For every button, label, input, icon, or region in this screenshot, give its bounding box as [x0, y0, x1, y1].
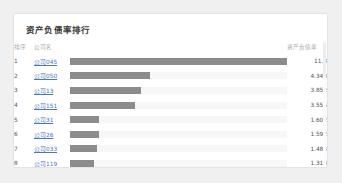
table-header: 排序 公司名 资产负债率 — [14, 41, 327, 54]
ranking-table-container: 排序 公司名 资产负债率 1公司04511.82公司0504.3433公司133… — [14, 41, 327, 167]
table-row: 5公司311.602 — [14, 112, 327, 127]
table-row: 1公司04511.8 — [14, 54, 327, 69]
bar-fill — [70, 131, 99, 138]
company-link[interactable]: 公司045 — [34, 59, 57, 65]
row-value: 4.343 — [287, 69, 327, 84]
bar-track — [70, 160, 287, 167]
page-root: 资产负债率排行 排序 公司名 资产负债率 1公司04511.82公司0504.3… — [0, 0, 342, 183]
company-link[interactable]: 公司13 — [34, 88, 53, 94]
company-link[interactable]: 公司151 — [34, 103, 57, 109]
table-body: 1公司04511.82公司0504.3433公司133.8524公司1513.5… — [14, 54, 327, 167]
row-company-cell: 公司151 — [34, 98, 70, 113]
row-company-cell: 公司050 — [34, 69, 70, 84]
bar-fill — [70, 102, 135, 109]
company-link[interactable]: 公司26 — [34, 132, 53, 138]
bar-track — [70, 145, 287, 152]
column-header-name: 公司名 — [34, 41, 70, 54]
row-value: 1.592 — [287, 127, 327, 142]
bar-track — [70, 102, 287, 109]
bar-fill — [70, 160, 94, 167]
row-bar-cell — [70, 156, 287, 167]
row-company-cell: 公司13 — [34, 83, 70, 98]
row-rank: 1 — [14, 54, 34, 69]
table-row: 7公司0331.484 — [14, 142, 327, 157]
table-row: 8公司1191.313 — [14, 156, 327, 167]
row-bar-cell — [70, 112, 287, 127]
row-bar-cell — [70, 83, 287, 98]
bar-track — [70, 58, 287, 65]
row-value: 3.852 — [287, 83, 327, 98]
column-header-value: 资产负债率 — [287, 41, 327, 54]
row-rank: 7 — [14, 142, 34, 157]
row-company-cell: 公司045 — [34, 54, 70, 69]
table-header-row: 排序 公司名 资产负债率 — [14, 41, 327, 54]
row-rank: 6 — [14, 127, 34, 142]
row-value: 1.484 — [287, 142, 327, 157]
row-rank: 5 — [14, 112, 34, 127]
row-bar-cell — [70, 127, 287, 142]
asset-liability-ranking-card: 资产负债率排行 排序 公司名 资产负债率 1公司04511.82公司0504.3… — [13, 13, 328, 168]
row-rank: 4 — [14, 98, 34, 113]
row-value: 11.8 — [287, 54, 327, 69]
bar-track — [70, 116, 287, 123]
bar-fill — [70, 145, 97, 152]
table-row: 3公司133.852 — [14, 83, 327, 98]
column-header-bar — [70, 41, 287, 54]
bar-fill — [70, 116, 99, 123]
company-link[interactable]: 公司119 — [34, 161, 57, 167]
bar-track — [70, 87, 287, 94]
row-rank: 2 — [14, 69, 34, 84]
row-bar-cell — [70, 69, 287, 84]
company-link[interactable]: 公司033 — [34, 146, 57, 152]
row-company-cell: 公司26 — [34, 127, 70, 142]
bar-fill — [70, 72, 150, 79]
row-bar-cell — [70, 98, 287, 113]
page-title: 资产负债率排行 — [26, 23, 90, 35]
bar-fill — [70, 58, 287, 65]
company-link[interactable]: 公司050 — [34, 73, 57, 79]
row-value: 3.555 — [287, 98, 327, 113]
table-row: 6公司261.592 — [14, 127, 327, 142]
ranking-table: 排序 公司名 资产负债率 1公司04511.82公司0504.3433公司133… — [14, 41, 327, 167]
company-link[interactable]: 公司31 — [34, 117, 53, 123]
row-company-cell: 公司119 — [34, 156, 70, 167]
row-bar-cell — [70, 142, 287, 157]
row-rank: 8 — [14, 156, 34, 167]
scrollbar-thumb[interactable] — [323, 42, 326, 76]
bar-track — [70, 72, 287, 79]
row-value: 1.602 — [287, 112, 327, 127]
bar-fill — [70, 87, 141, 94]
row-bar-cell — [70, 54, 287, 69]
vertical-scrollbar[interactable] — [323, 40, 326, 165]
row-company-cell: 公司033 — [34, 142, 70, 157]
column-header-rank: 排序 — [14, 41, 34, 54]
row-rank: 3 — [14, 83, 34, 98]
table-row: 2公司0504.343 — [14, 69, 327, 84]
table-row: 4公司1513.555 — [14, 98, 327, 113]
row-value: 1.313 — [287, 156, 327, 167]
bar-track — [70, 131, 287, 138]
row-company-cell: 公司31 — [34, 112, 70, 127]
